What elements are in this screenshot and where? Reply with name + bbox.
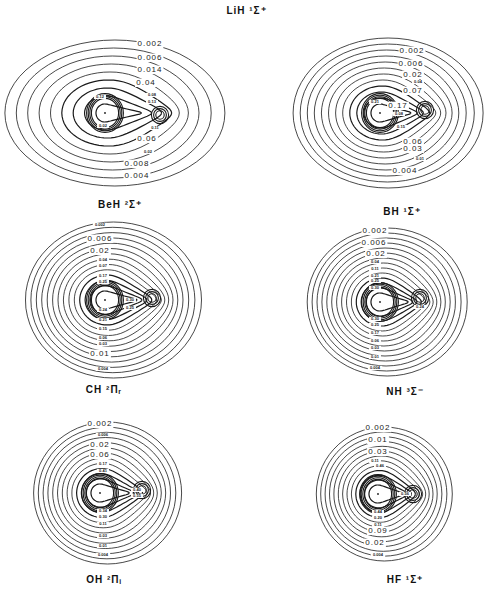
- contour-plot-oh: 0.0020.010.030.110.460.560.440.200.110.0…: [316, 423, 452, 561]
- caption-nh: NH ³Σ⁻: [345, 386, 465, 397]
- contour-value-label: 0.25: [126, 305, 135, 310]
- contour-value-label: 0.03: [99, 341, 108, 346]
- contour-value-label: 0.08: [395, 111, 404, 116]
- figure-canvas: LiH ¹Σ⁺ 0.0020.0060.0140.040.080.130.110…: [0, 0, 493, 594]
- contour-value-label: 0.002: [87, 419, 112, 428]
- contour-line: [336, 74, 441, 152]
- contour-value-label: 0.002: [399, 46, 424, 55]
- contour-value-label: 0.15: [99, 326, 108, 331]
- caption-hf: HF ¹Σ⁺: [345, 574, 465, 585]
- contour-value-label: 0.006: [398, 59, 423, 68]
- contour-line: [31, 227, 195, 372]
- contour-line: [26, 222, 202, 378]
- contour-line: [42, 238, 183, 362]
- heavy-nucleus-dot: [99, 492, 101, 494]
- contour-value-label: 0.34: [99, 508, 108, 513]
- caption-bh: BH ¹Σ⁺: [342, 206, 462, 217]
- contour-value-label: 0.02: [403, 70, 423, 79]
- contour-line: [51, 72, 180, 154]
- contour-line: [307, 228, 467, 376]
- contour-value-label: 0.01: [416, 156, 425, 161]
- contour-value-label: 0.04: [136, 78, 156, 87]
- contour-value-label: 0.06: [371, 338, 380, 343]
- contour-plot-ch: 0.0020.0060.020.040.110.210.250.300.240.…: [307, 226, 467, 376]
- contour-value-label: 0.30: [126, 297, 135, 302]
- heavy-nucleus-dot: [379, 301, 381, 303]
- contour-value-label: 0.41: [99, 468, 108, 473]
- contour-value-label: 0.04: [99, 257, 108, 262]
- contour-value-label: 0.002: [362, 226, 387, 235]
- contour-value-label: 0.01: [371, 354, 380, 359]
- contour-value-label: 0.002: [95, 222, 106, 227]
- contour-value-label: 0.04: [414, 79, 423, 84]
- contour-value-label: 0.02: [365, 538, 385, 547]
- contour-value-label: 0.06: [137, 134, 157, 143]
- contour-value-label: 0.44: [374, 509, 383, 514]
- contour-plots: 0.0020.0060.0140.040.080.130.110.060.020…: [0, 0, 493, 594]
- contour-value-label: 0.004: [370, 365, 381, 370]
- contour-line: [36, 233, 188, 368]
- caption-oh: OH ²Πᵢ: [44, 574, 164, 585]
- contour-value-label: 0.12: [96, 94, 105, 99]
- contour-value-label: 0.004: [98, 552, 109, 557]
- contour-value-label: 0.07: [403, 86, 423, 95]
- contour-line: [81, 474, 138, 513]
- contour-value-label: 0.24: [99, 307, 108, 312]
- contour-value-label: 0.15: [397, 124, 406, 129]
- contour-value-label: 0.006: [361, 238, 386, 247]
- contour-value-label: 0.02: [366, 249, 386, 258]
- contour-value-label: 0.01: [368, 435, 388, 444]
- contour-value-label: 0.004: [373, 552, 384, 557]
- contour-value-label: 0.17: [371, 330, 380, 335]
- contour-value-label: 0.02: [90, 246, 110, 255]
- contour-plot-beh: 0.0020.0060.020.040.070.170.080.150.060.…: [293, 38, 483, 188]
- contour-value-label: 0.004: [124, 171, 149, 180]
- contour-value-label: 0.06: [99, 335, 108, 340]
- contour-value-label: 0.008: [124, 159, 149, 168]
- contour-value-label: 0.03: [99, 533, 108, 538]
- contour-value-label: 0.21: [371, 99, 380, 104]
- contour-value-label: 0.25: [371, 278, 380, 283]
- contour-value-label: 0.06: [90, 450, 110, 459]
- contour-value-label: 0.03: [371, 345, 380, 350]
- contour-value-label: 0.07: [99, 263, 108, 268]
- contour-value-label: 0.46: [376, 463, 385, 468]
- contour-value-label: 0.11: [151, 125, 159, 130]
- contour-value-label: 0.17: [99, 461, 108, 466]
- contour-value-label: 0.02: [99, 123, 108, 128]
- contour-line: [28, 56, 199, 170]
- contour-value-label: 0.30: [371, 316, 380, 321]
- contour-value-label: 0.17: [388, 101, 408, 110]
- contour-value-label: 0.02: [144, 149, 153, 154]
- contour-value-label: 0.25: [99, 279, 108, 284]
- contour-value-label: 0.30: [99, 514, 108, 519]
- contour-line: [300, 44, 474, 182]
- contour-line: [16, 48, 211, 178]
- contour-value-label: 0.13: [148, 99, 157, 104]
- contour-value-label: 0.40: [133, 487, 142, 492]
- contour-line: [5, 40, 225, 186]
- contour-value-label: 0.17: [99, 273, 108, 278]
- heavy-nucleus-dot: [377, 493, 379, 495]
- caption-beh: BeH ²Σ⁺: [60, 199, 180, 210]
- contour-value-label: 0.004: [392, 166, 417, 175]
- heavy-nucleus-dot: [379, 112, 381, 114]
- h-nucleus-contour: [416, 294, 424, 302]
- contour-value-label: 0.20: [374, 515, 383, 520]
- contour-line: [347, 268, 430, 336]
- contour-value-label: 0.02: [90, 440, 110, 449]
- contour-value-label: 0.55: [133, 493, 142, 498]
- contour-value-label: 0.30: [371, 285, 380, 290]
- contour-value-label: 0.006: [98, 432, 109, 437]
- contour-value-label: 0.24: [416, 304, 425, 309]
- contour-line: [69, 265, 161, 336]
- contour-value-label: 0.004: [98, 366, 109, 371]
- contour-plot-bh: 0.0020.0060.020.040.070.170.250.300.250.…: [26, 222, 202, 378]
- contour-value-label: 0.03: [368, 447, 388, 456]
- heavy-nucleus-dot: [104, 299, 106, 301]
- contour-value-label: 0.002: [137, 39, 162, 48]
- contour-value-label: 0.56: [401, 491, 410, 496]
- contour-plot-lih: 0.0020.0060.0140.040.080.130.110.060.020…: [5, 39, 225, 186]
- contour-value-label: 0.21: [99, 317, 108, 322]
- contour-line: [322, 243, 450, 361]
